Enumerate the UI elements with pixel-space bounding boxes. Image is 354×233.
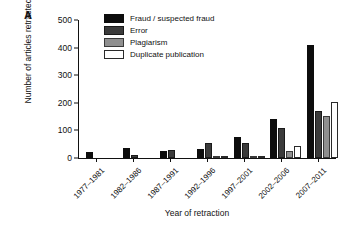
x-tick-label: 2007–2011 — [294, 166, 328, 200]
legend-label: Plagiarism — [130, 38, 167, 47]
y-tick-mark-400 — [74, 47, 78, 48]
bar — [307, 45, 314, 158]
y-tick-mark-0 — [74, 158, 78, 159]
x-tick-label: 2002–2006 — [256, 166, 291, 201]
bar — [86, 152, 93, 158]
bar — [123, 148, 130, 158]
y-axis-title: Number of articles retracted — [23, 0, 33, 131]
figure-panel-a: A Number of articles retracted Year of r… — [0, 0, 354, 233]
legend-swatch-icon — [104, 26, 124, 35]
legend-item: Error — [104, 26, 215, 35]
bar-group — [86, 20, 93, 158]
chart-legend: Fraud / suspected fraudErrorPlagiarismDu… — [104, 14, 215, 59]
legend-label: Duplicate publication — [130, 50, 204, 59]
x-tick-label: 1992–1996 — [183, 166, 218, 201]
bar — [331, 102, 338, 158]
bar — [168, 150, 175, 158]
legend-label: Fraud / suspected fraud — [130, 14, 215, 23]
legend-label: Error — [130, 26, 148, 35]
legend-swatch-icon — [104, 50, 124, 59]
x-tick-mark — [318, 158, 319, 162]
y-axis-line — [78, 20, 79, 158]
bar — [213, 156, 220, 158]
bar — [315, 111, 322, 158]
bar — [234, 137, 241, 158]
bar — [258, 156, 265, 158]
bar — [131, 155, 138, 158]
x-tick-mark — [170, 158, 171, 162]
bar — [278, 128, 285, 158]
bar-group — [307, 20, 338, 158]
bar — [242, 143, 249, 158]
y-tick-mark-200 — [74, 102, 78, 103]
y-tick-mark-500 — [74, 20, 78, 21]
x-tick-label: 1977–1981 — [72, 166, 107, 201]
x-tick-label: 1997–2001 — [220, 166, 255, 201]
legend-item: Duplicate publication — [104, 50, 215, 59]
bar — [323, 116, 330, 158]
bar — [294, 146, 301, 158]
x-tick-label: 1987–1991 — [146, 166, 181, 201]
y-tick-mark-300 — [74, 75, 78, 76]
x-axis-title: Year of retraction — [0, 208, 354, 218]
bar-group — [270, 20, 301, 158]
bar — [197, 149, 204, 158]
bar — [270, 119, 277, 158]
bar — [250, 156, 257, 158]
legend-swatch-icon — [104, 14, 124, 23]
bar — [286, 151, 293, 158]
bar-group — [234, 20, 265, 158]
x-tick-mark — [207, 158, 208, 162]
bar — [205, 143, 212, 158]
bar — [160, 151, 167, 158]
legend-item: Plagiarism — [104, 38, 215, 47]
y-tick-mark-100 — [74, 130, 78, 131]
bar — [221, 156, 228, 158]
x-tick-mark — [244, 158, 245, 162]
legend-swatch-icon — [104, 38, 124, 47]
x-tick-label: 1982–1986 — [109, 166, 144, 201]
x-tick-mark — [133, 158, 134, 162]
legend-item: Fraud / suspected fraud — [104, 14, 215, 23]
x-tick-mark — [281, 158, 282, 162]
x-tick-mark — [96, 158, 97, 162]
